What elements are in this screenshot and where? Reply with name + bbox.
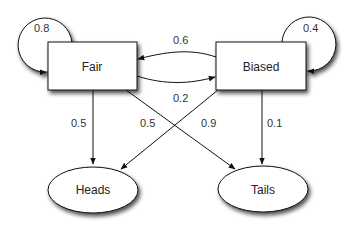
node-heads: Heads [48,167,138,213]
markov-diagram: Fair Biased Heads Tails 0.8 0.4 0.6 0.2 … [0,0,353,229]
label-fair-self: 0.8 [34,22,49,34]
node-heads-label: Heads [76,183,111,197]
label-fair-to-tails: 0.5 [140,117,155,129]
label-fair-to-heads: 0.5 [71,117,86,129]
node-tails-label: Tails [251,183,275,197]
label-biased-to-heads: 0.9 [201,117,216,129]
label-biased-to-fair: 0.6 [173,34,188,46]
edge-biased-to-heads [121,90,218,169]
label-fair-to-biased: 0.2 [173,92,188,104]
node-tails: Tails [218,166,308,212]
edge-fair-to-biased [137,76,215,83]
edge-biased-to-fair [138,52,216,59]
label-biased-self: 0.4 [303,22,318,34]
node-biased: Biased [216,42,306,90]
node-fair: Fair [48,42,137,90]
node-biased-label: Biased [243,60,280,74]
label-biased-to-tails: 0.1 [267,117,282,129]
node-fair-label: Fair [82,60,103,74]
